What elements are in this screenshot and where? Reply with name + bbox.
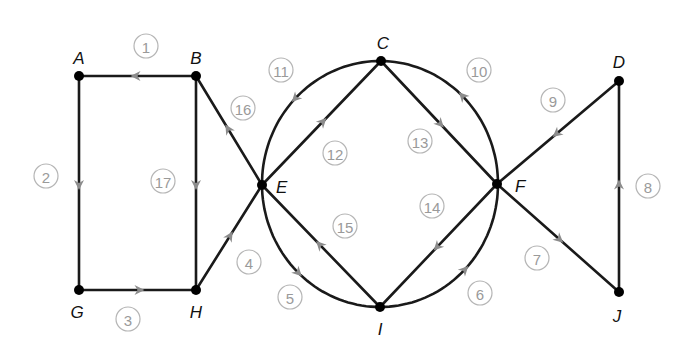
node-dot	[614, 287, 624, 297]
node-dot	[375, 302, 385, 312]
node-label: A	[72, 49, 84, 68]
edge-label-number: 12	[327, 146, 344, 163]
edge-label-14: 14	[420, 194, 444, 218]
node-dot	[74, 285, 84, 295]
node-label: H	[190, 303, 203, 322]
edge-label-number: 13	[412, 134, 429, 151]
edge-label-4: 4	[237, 250, 261, 274]
edge-label-5: 5	[278, 285, 302, 309]
edge-label-15: 15	[333, 214, 357, 238]
node-J: J	[612, 287, 624, 326]
node-label: C	[377, 34, 390, 53]
edge-label-2: 2	[34, 164, 58, 188]
node-I: I	[375, 302, 385, 339]
node-dot	[492, 179, 502, 189]
node-label: B	[190, 49, 201, 68]
node-label: D	[613, 53, 625, 72]
edge-label-17: 17	[151, 169, 175, 193]
edge-label-number: 2	[42, 169, 50, 186]
node-label: E	[276, 178, 288, 197]
node-G: G	[70, 285, 84, 322]
edge-label-8: 8	[636, 174, 660, 198]
edge-label-number: 10	[471, 63, 488, 80]
edge-label-number: 16	[235, 101, 252, 118]
edge-label-9: 9	[541, 88, 565, 112]
edge-label-number: 7	[533, 251, 541, 268]
edge-label-13: 13	[408, 129, 432, 153]
node-dot	[191, 285, 201, 295]
edge-label-7: 7	[525, 246, 549, 270]
graph-diagram: ABCDEFGHIJ 1234567891011121314151617	[0, 0, 687, 354]
edge-label-number: 8	[644, 179, 652, 196]
edge-label-10: 10	[467, 58, 491, 82]
node-dot	[191, 71, 201, 81]
edge-label-number: 15	[337, 219, 354, 236]
node-label: G	[70, 303, 83, 322]
node-dot	[74, 71, 84, 81]
edge-label-number: 3	[124, 312, 132, 329]
edge-label-6: 6	[468, 281, 492, 305]
edge-label-12: 12	[323, 141, 347, 165]
edge-label-number: 5	[286, 290, 294, 307]
edge-label-number: 14	[424, 199, 441, 216]
edge-label-3: 3	[116, 307, 140, 331]
node-dot	[257, 180, 267, 190]
node-D: D	[613, 53, 625, 86]
edge-label-number: 4	[245, 255, 253, 272]
node-label: F	[515, 177, 527, 196]
edge-label-number: 11	[273, 63, 289, 80]
node-dot	[376, 56, 386, 66]
node-label: I	[378, 320, 383, 339]
node-dot	[614, 76, 624, 86]
edge-label-number: 9	[549, 93, 557, 110]
edge-label-1: 1	[134, 34, 158, 58]
edge-label-number: 1	[142, 39, 150, 56]
edge-labels-layer: 1234567891011121314151617	[34, 34, 660, 331]
edge-label-number: 17	[155, 174, 172, 191]
node-H: H	[190, 285, 203, 322]
edge-label-16: 16	[231, 96, 255, 120]
edge-label-11: 11	[269, 58, 293, 82]
node-label: J	[612, 307, 622, 326]
node-A: A	[72, 49, 84, 81]
edge-label-number: 6	[476, 286, 484, 303]
node-B: B	[190, 49, 201, 81]
